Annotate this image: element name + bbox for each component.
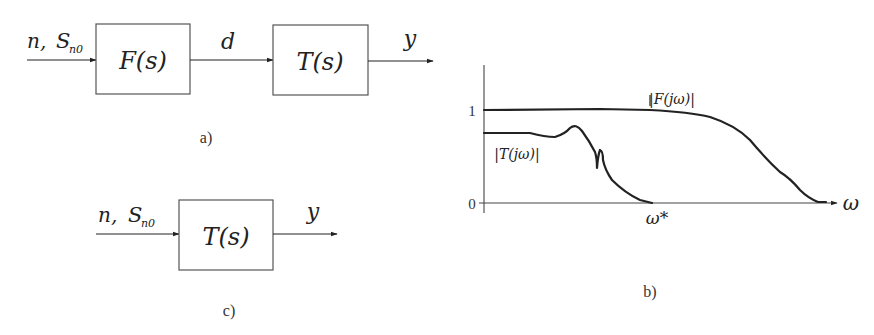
input-label-a: n, S n0 <box>27 29 83 56</box>
figure-canvas: n, S n0 F(s) d T(s) y a) n, S n0 T(s) y … <box>0 0 874 335</box>
block-T-a-label: T(s) <box>296 48 343 76</box>
block-F-label: F(s) <box>118 47 167 75</box>
curve-T-label: |T(jω)| <box>494 146 539 163</box>
omega-star-label: ω* <box>646 208 669 228</box>
output-y-label-a: y <box>403 26 417 51</box>
y-tick-1: 1 <box>468 103 476 119</box>
diagram-a: n, S n0 F(s) d T(s) y a) <box>27 24 433 147</box>
x-axis-omega-label: ω <box>843 191 859 215</box>
caption-a: a) <box>200 129 212 147</box>
block-T-c-label: T(s) <box>202 223 249 251</box>
curve-T <box>484 126 652 203</box>
curve-F-label: |F(jω)| <box>649 91 695 108</box>
caption-b: b) <box>643 283 656 301</box>
input-n-label-c: n, <box>98 203 117 227</box>
caption-c: c) <box>223 302 235 320</box>
y-tick-0: 0 <box>468 196 476 212</box>
svg-text:|F(jω)|: |F(jω)| <box>649 91 695 108</box>
input-n-label: n, <box>27 29 46 53</box>
diagram-c: n, S n0 T(s) y c) <box>96 199 337 320</box>
intermediate-d-label: d <box>221 29 235 54</box>
input-subscript-label: n0 <box>69 43 83 56</box>
input-subscript-label-c: n0 <box>141 217 155 230</box>
output-y-label-c: y <box>306 199 320 224</box>
plot-b: 1 0 ω ω* |F(jω)| |T(jω)| b) <box>468 65 859 301</box>
svg-text:|T(jω)|: |T(jω)| <box>494 146 539 163</box>
